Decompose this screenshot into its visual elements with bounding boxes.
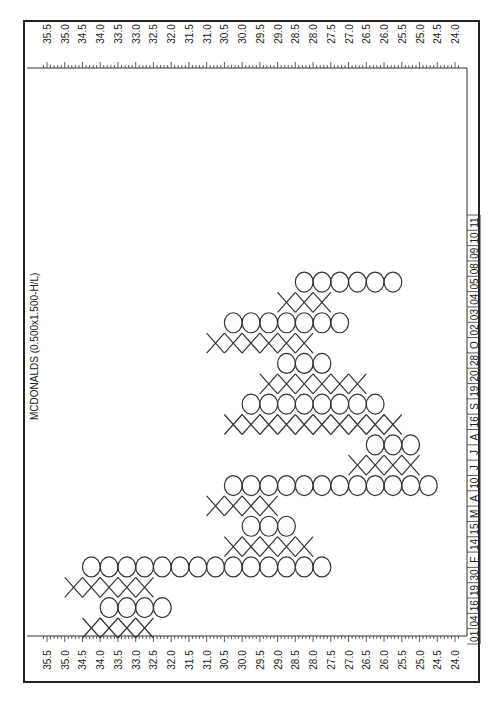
date-label: S (469, 403, 480, 410)
date-label: 16 (469, 600, 480, 612)
date-label: 09 (469, 247, 480, 259)
o-mark (331, 313, 349, 333)
date-label: O (469, 341, 480, 349)
date-label: 05 (469, 278, 480, 290)
o-column (82, 557, 330, 577)
date-label: 02 (469, 324, 480, 336)
o-mark (278, 394, 296, 414)
date-label: F (469, 557, 480, 563)
bottom-tick-label: 35.5 (42, 650, 53, 670)
o-mark (295, 557, 313, 577)
o-column (100, 598, 171, 618)
o-mark (402, 476, 420, 496)
o-mark (278, 516, 296, 536)
x-column (260, 374, 366, 394)
top-tick-label: 27.0 (344, 24, 355, 44)
date-label: 15 (469, 523, 480, 535)
o-mark (295, 353, 313, 373)
bottom-tick-label: 31.0 (202, 650, 213, 670)
bottom-tick-label: 27.5 (326, 650, 337, 670)
o-mark (260, 516, 278, 536)
o-mark (171, 557, 189, 577)
x-column (82, 618, 153, 638)
top-tick-label: 30.5 (219, 24, 230, 44)
x-column (207, 333, 313, 353)
top-tick-label: 32.0 (166, 24, 177, 44)
bottom-tick-label: 25.0 (415, 650, 426, 670)
bottom-tick-label: 34.5 (77, 650, 88, 670)
date-label: 20 (469, 370, 480, 382)
bottom-tick-label: 26.0 (379, 650, 390, 670)
o-mark (260, 394, 278, 414)
top-tick-label: 27.5 (326, 24, 337, 44)
x-column (65, 577, 154, 597)
o-mark (295, 394, 313, 414)
bottom-tick-label: 25.5 (397, 650, 408, 670)
bottom-tick-label: 30.5 (219, 650, 230, 670)
top-tick-label: 35.0 (60, 24, 71, 44)
chart-title: MCDONALDS (0.500x1.500-H/L) (29, 273, 40, 420)
top-tick-label: 26.0 (379, 24, 390, 44)
top-tick-label: 25.5 (397, 24, 408, 44)
bottom-tick-label: 28.5 (290, 650, 301, 670)
top-price-axis: 35.535.034.534.033.533.032.532.031.531.0… (27, 24, 467, 68)
top-tick-label: 24.0 (450, 24, 461, 44)
top-tick-label: 31.0 (202, 24, 213, 44)
o-mark (278, 313, 296, 333)
o-mark (242, 557, 260, 577)
o-mark (100, 557, 118, 577)
bottom-tick-label: 24.0 (450, 650, 461, 670)
top-tick-label: 29.0 (273, 24, 284, 44)
o-mark (366, 435, 384, 455)
bottom-tick-label: 27.0 (344, 650, 355, 670)
o-mark (100, 598, 118, 618)
date-label: 19 (469, 385, 480, 397)
o-mark (136, 557, 154, 577)
date-label: J (469, 465, 480, 470)
date-label: A (469, 433, 480, 440)
bottom-tick-label: 24.5 (432, 650, 443, 670)
date-label: J (469, 450, 480, 455)
o-mark (242, 516, 260, 536)
top-tick-label: 33.0 (131, 24, 142, 44)
o-mark (295, 313, 313, 333)
o-mark (242, 313, 260, 333)
o-mark (349, 394, 367, 414)
o-mark (224, 557, 242, 577)
o-mark (349, 476, 367, 496)
top-tick-label: 35.5 (42, 24, 53, 44)
bottom-tick-label: 32.0 (166, 650, 177, 670)
o-mark (189, 557, 207, 577)
bottom-tick-label: 29.0 (273, 650, 284, 670)
o-mark (278, 353, 296, 373)
o-mark (349, 272, 367, 292)
date-label: 08 (469, 263, 480, 275)
pf-marks (65, 272, 438, 638)
o-mark (118, 557, 136, 577)
bottom-price-axis: 35.535.034.534.033.533.032.532.031.531.0… (27, 636, 467, 670)
o-mark (207, 557, 225, 577)
date-label: 16 (469, 416, 480, 428)
date-label: 19 (469, 584, 480, 596)
o-mark (260, 557, 278, 577)
o-mark (82, 557, 100, 577)
top-tick-label: 24.5 (432, 24, 443, 44)
o-column (366, 435, 419, 455)
top-tick-label: 28.0 (308, 24, 319, 44)
o-mark (260, 476, 278, 496)
x-column (224, 537, 313, 557)
top-tick-label: 29.5 (255, 24, 266, 44)
bottom-tick-label: 28.0 (308, 650, 319, 670)
o-mark (384, 435, 402, 455)
o-mark (118, 598, 136, 618)
o-mark (153, 598, 171, 618)
o-column (242, 394, 384, 414)
o-mark (384, 476, 402, 496)
top-tick-label: 28.5 (290, 24, 301, 44)
top-tick-label: 26.5 (361, 24, 372, 44)
date-label: 11 (469, 217, 480, 228)
date-label: 30 (469, 569, 480, 581)
date-label: 01 (469, 630, 480, 642)
date-label: 10 (469, 232, 480, 244)
bottom-tick-label: 33.0 (131, 650, 142, 670)
